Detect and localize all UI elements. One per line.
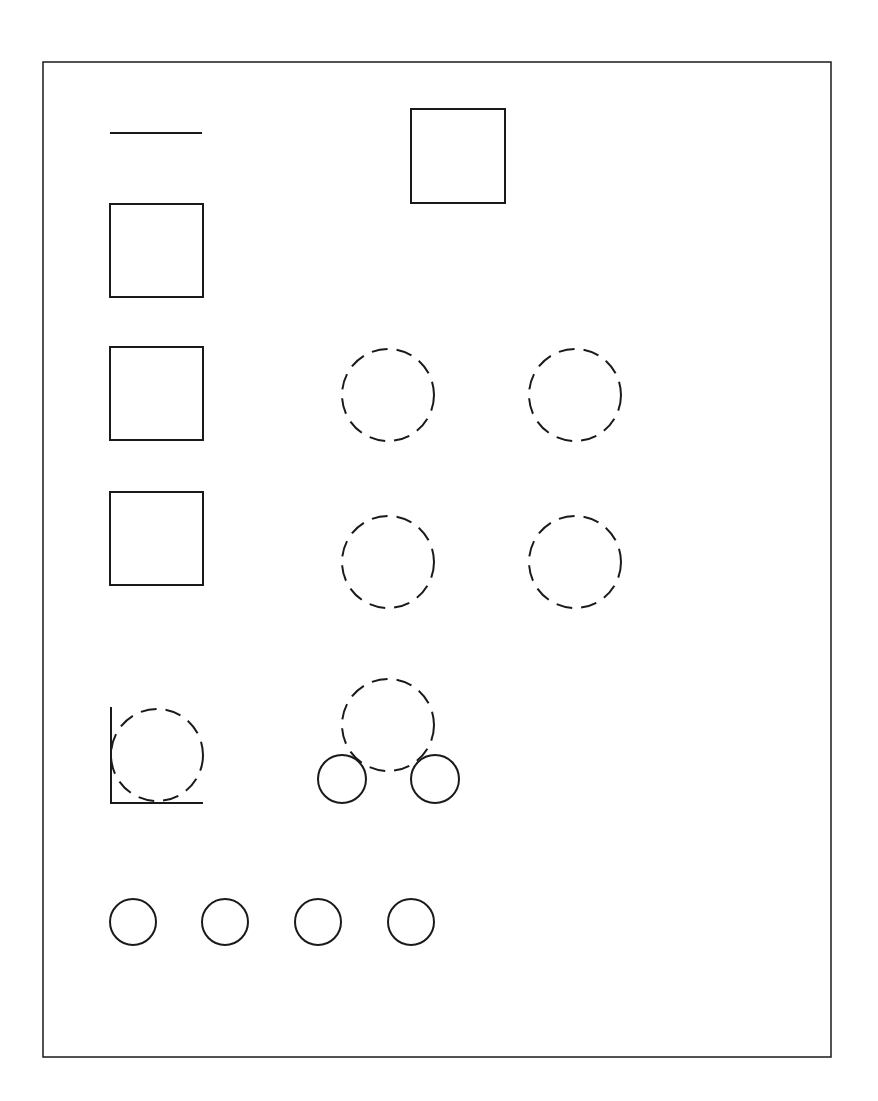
- squares-group: [110, 109, 505, 585]
- diagram-canvas: [0, 0, 878, 1101]
- square: [110, 492, 203, 585]
- solid-circles-group: [110, 755, 459, 945]
- page-frame: [43, 62, 831, 1057]
- dashed-circle: [529, 516, 621, 608]
- dashed-circles-group: [111, 349, 621, 801]
- solid-circle: [411, 755, 459, 803]
- square: [110, 347, 203, 440]
- solid-circle: [295, 899, 341, 945]
- solid-circle: [202, 899, 248, 945]
- dashed-circle: [111, 709, 203, 801]
- solid-circle: [110, 899, 156, 945]
- square: [110, 204, 203, 297]
- dashed-circle: [342, 349, 434, 441]
- square: [411, 109, 505, 203]
- solid-circle: [388, 899, 434, 945]
- dashed-circle: [342, 516, 434, 608]
- dashed-circle: [342, 679, 434, 771]
- solid-circle: [318, 755, 366, 803]
- dashed-circle: [529, 349, 621, 441]
